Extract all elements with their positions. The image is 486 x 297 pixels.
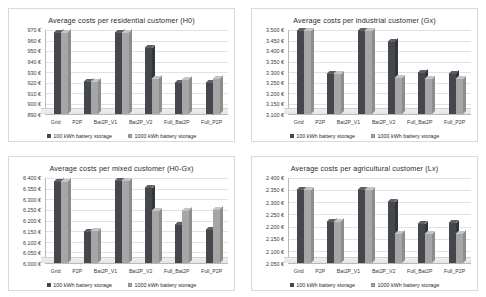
legend-item-series2: 1000 kWh battery storage — [128, 282, 196, 288]
bar-group — [145, 178, 159, 263]
bar[interactable] — [449, 73, 456, 114]
bar[interactable] — [122, 181, 129, 263]
bar-face — [456, 233, 463, 263]
bar[interactable] — [425, 234, 432, 263]
bar[interactable] — [297, 190, 304, 263]
x-axis-tick-label: Grid — [51, 268, 61, 274]
legend-label: 1000 kWh battery storage — [378, 282, 440, 288]
bar[interactable] — [395, 78, 402, 114]
bar[interactable] — [115, 181, 122, 263]
bar-side — [463, 231, 466, 263]
chart-panel-agricultural: Average costs per agricultural customer … — [243, 148, 486, 297]
bar-side — [220, 76, 223, 114]
bar[interactable] — [91, 231, 98, 263]
x-axis-tick-label: Full_P2P — [444, 119, 465, 125]
bar-group — [388, 178, 402, 263]
bar[interactable] — [182, 79, 189, 114]
bar[interactable] — [54, 181, 61, 263]
bar-group — [84, 178, 98, 263]
plot-area: 890 €900 €910 €920 €930 €940 €950 €960 €… — [9, 30, 234, 115]
y-axis-tick-label: 2.300 € — [266, 200, 284, 206]
y-axis-tick-label: 2.400 € — [266, 175, 284, 181]
bar[interactable] — [358, 190, 365, 263]
bar-side — [432, 76, 435, 114]
bar[interactable] — [334, 74, 341, 114]
chart-title: Average costs per agricultural customer … — [252, 164, 477, 173]
bar[interactable] — [449, 223, 456, 263]
bar[interactable] — [304, 190, 311, 263]
bar[interactable] — [182, 210, 189, 263]
legend-swatch-icon — [128, 134, 132, 138]
chart-panel-industrial: Average costs per industrial customer (G… — [243, 0, 486, 148]
y-axis-tick-label: 930 € — [28, 70, 42, 76]
chart-frame: Average costs per mixed customer (H0-Gx)… — [8, 156, 235, 291]
y-axis-tick-label: 6.100 € — [23, 240, 41, 246]
bar[interactable] — [61, 181, 68, 263]
y-axis-tick-label: 3.250 € — [266, 80, 284, 86]
bar[interactable] — [358, 31, 365, 114]
bar[interactable] — [388, 202, 395, 263]
bar-group — [418, 30, 432, 114]
bar[interactable] — [115, 32, 122, 114]
bar-groups — [46, 178, 228, 263]
y-axis-tick-label: 3.100 € — [266, 112, 284, 118]
bar[interactable] — [91, 81, 98, 114]
bar-side — [341, 219, 344, 263]
bar[interactable] — [61, 32, 68, 114]
bar-group — [145, 30, 159, 114]
y-axis: 2.050 €2.100 €2.150 €2.200 €2.250 €2.300… — [254, 178, 286, 264]
bar[interactable] — [122, 32, 129, 114]
y-axis-tick-label: 2.250 € — [266, 212, 284, 218]
chart-legend: 100 kWh battery storage 1000 kWh battery… — [252, 282, 477, 288]
bar[interactable] — [327, 74, 334, 114]
bar[interactable] — [145, 48, 152, 114]
bar[interactable] — [327, 221, 334, 263]
bar[interactable] — [84, 81, 91, 114]
bar[interactable] — [84, 231, 91, 263]
bar[interactable] — [304, 31, 311, 114]
bar[interactable] — [145, 188, 152, 263]
bar[interactable] — [418, 224, 425, 263]
bar-side — [189, 208, 192, 263]
bar-side — [341, 71, 344, 114]
bar-group — [115, 30, 129, 114]
chart-frame: Average costs per residential customer (… — [8, 8, 235, 142]
bar[interactable] — [365, 190, 372, 263]
bar[interactable] — [425, 79, 432, 114]
x-axis-tick-label: P2P — [315, 119, 325, 125]
bar-side — [311, 28, 314, 114]
chart-legend: 100 kWh battery storage 1000 kWh battery… — [9, 133, 234, 139]
bar[interactable] — [456, 79, 463, 114]
bar-side — [372, 28, 375, 114]
bar[interactable] — [365, 31, 372, 114]
bar[interactable] — [297, 31, 304, 114]
bar[interactable] — [175, 83, 182, 115]
chart-title: Average costs per residential customer (… — [9, 16, 234, 25]
bar-side — [220, 207, 223, 263]
y-axis-tick-label: 910 € — [28, 91, 42, 97]
bar-face — [365, 190, 372, 263]
x-axis-tick-label: Full_P2P — [201, 119, 222, 125]
bar[interactable] — [388, 41, 395, 114]
y-axis-tick-label: 2.200 € — [266, 224, 284, 230]
y-axis-tick-label: 2.100 € — [266, 249, 284, 255]
bar[interactable] — [206, 229, 213, 263]
bar[interactable] — [152, 211, 159, 263]
chart-panel-mixed: Average costs per mixed customer (H0-Gx)… — [0, 148, 243, 297]
bar[interactable] — [456, 233, 463, 263]
chart-title: Average costs per industrial customer (G… — [252, 16, 477, 25]
x-axis-tick-label: Full_Bat2P — [407, 119, 432, 125]
bar-side — [463, 76, 466, 114]
plot-canvas — [45, 30, 228, 115]
bar[interactable] — [334, 221, 341, 263]
bar[interactable] — [213, 209, 220, 263]
bar[interactable] — [54, 32, 61, 114]
bar-side — [189, 77, 192, 114]
bar[interactable] — [175, 225, 182, 263]
legend-swatch-icon — [290, 283, 294, 287]
bar[interactable] — [213, 78, 220, 114]
bar[interactable] — [206, 83, 213, 115]
bar[interactable] — [152, 78, 159, 114]
bar[interactable] — [395, 233, 402, 263]
bar-groups — [289, 30, 471, 114]
